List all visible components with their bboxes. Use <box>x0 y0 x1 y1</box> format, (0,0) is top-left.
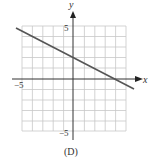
y-tick-neg5: −5 <box>59 128 69 138</box>
graph-line <box>16 28 134 89</box>
y-axis-label: y <box>68 0 74 10</box>
coordinate-plane: x y 5 −5 −5 (D) <box>0 0 152 160</box>
figure-caption: (D) <box>64 146 78 158</box>
x-axis-label: x <box>142 74 148 85</box>
x-axis-arrow-icon <box>135 76 143 82</box>
y-tick-5: 5 <box>64 23 69 33</box>
x-tick-neg5: −5 <box>14 80 24 90</box>
y-axis-arrow-icon <box>70 11 76 18</box>
